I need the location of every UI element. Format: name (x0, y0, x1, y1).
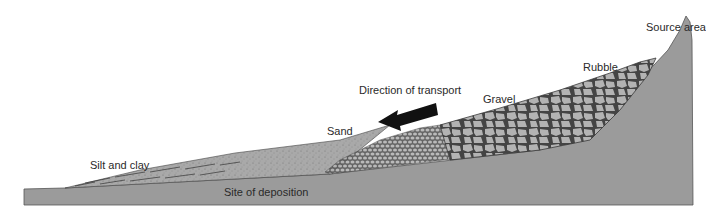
label-site-of-deposition: Site of deposition (224, 187, 308, 198)
label-silt-and-clay: Silt and clay (90, 160, 149, 171)
label-direction-of-transport: Direction of transport (359, 85, 461, 96)
label-sand: Sand (327, 126, 353, 137)
label-gravel: Gravel (483, 94, 515, 105)
label-rubble: Rubble (583, 62, 618, 73)
label-source-area: Source area (646, 22, 706, 33)
